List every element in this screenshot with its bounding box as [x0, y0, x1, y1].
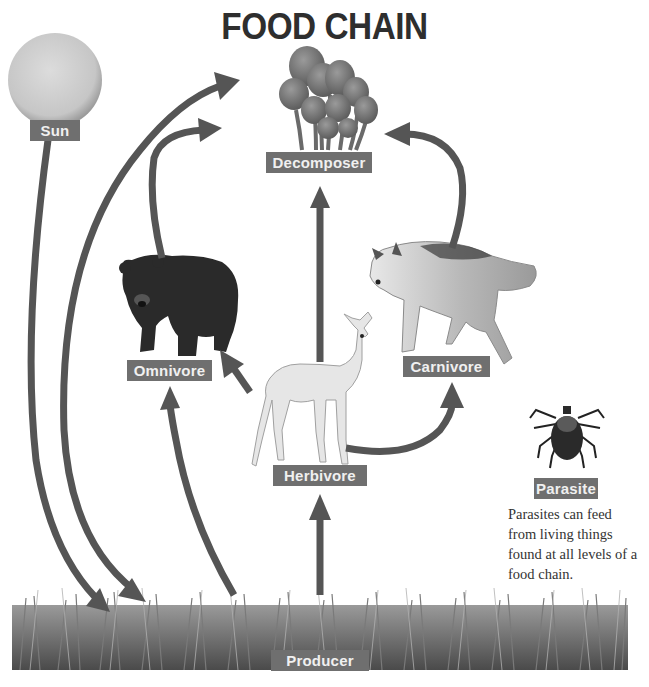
- carnivore-label: Carnivore: [403, 356, 490, 377]
- arrow-producer-to-omnivore: [170, 405, 234, 595]
- parasite-label: Parasite: [534, 478, 598, 499]
- producer-label: Producer: [271, 650, 369, 671]
- parasite-note: Parasites can feed from living things fo…: [508, 504, 643, 584]
- decomposer-label: Decomposer: [266, 152, 372, 173]
- arrow-herbivore-to-carnivore: [346, 404, 452, 451]
- herbivore-label: Herbivore: [273, 465, 367, 486]
- omnivore-label: Omnivore: [127, 360, 212, 381]
- arrow-carnivore-to-decomposer: [404, 134, 463, 248]
- arrow-omnivore-to-decomposer: [152, 130, 204, 258]
- sun-label: Sun: [30, 120, 80, 141]
